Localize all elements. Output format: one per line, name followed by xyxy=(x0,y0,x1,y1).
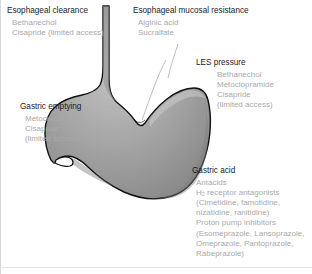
drug-item: Cisapride xyxy=(217,90,274,100)
drug-item: (limited access) xyxy=(25,134,82,144)
callout-title-gastric-acid: Gastric acid xyxy=(192,166,308,177)
drug-item: (limited access) xyxy=(217,100,274,110)
drug-list-esophageal-mucosal-resistance: Alginic acid Sucralfate xyxy=(133,18,249,38)
drug-list-les-pressure: Bethanechol Metoclopramide Cisapride (li… xyxy=(196,70,274,111)
callout-gastric-acid: Gastric acid Antacids H₂ receptor antago… xyxy=(192,166,308,259)
drug-item: Proton pump inhibitors xyxy=(196,218,308,228)
callout-title-les-pressure: LES pressure xyxy=(196,58,274,69)
drug-list-gastric-emptying: Metoclopramide Cisapride (limited access… xyxy=(20,114,82,145)
drug-item: Sucralfate xyxy=(138,28,249,38)
callout-title-gastric-emptying: Gastric emptying xyxy=(20,102,82,113)
callout-esophageal-clearance: Esophageal clearance Bethanechol Cisapri… xyxy=(7,6,104,38)
pylorus-notch xyxy=(55,157,73,166)
leader-line-esophageal-mucosal xyxy=(168,44,178,78)
drug-list-gastric-acid: Antacids H₂ receptor antagonists (Cimeti… xyxy=(192,178,308,260)
drug-item: Cisapride (limited access) xyxy=(12,28,104,38)
callout-esophageal-mucosal-resistance: Esophageal mucosal resistance Alginic ac… xyxy=(133,6,249,38)
drug-item: Metoclopramide xyxy=(25,114,82,124)
drug-item: Metoclopramide xyxy=(217,80,274,90)
callout-gastric-emptying: Gastric emptying Metoclopramide Cisaprid… xyxy=(20,102,82,144)
callout-title-esophageal-mucosal-resistance: Esophageal mucosal resistance xyxy=(133,6,249,17)
drug-item: nizatidine, ranitidine) xyxy=(196,208,308,218)
callout-title-esophageal-clearance: Esophageal clearance xyxy=(7,6,104,17)
drug-item: Bethanechol xyxy=(217,70,274,80)
drug-item: Rabeprazole) xyxy=(196,249,308,259)
callout-les-pressure: LES pressure Bethanechol Metoclopramide … xyxy=(196,58,274,110)
drug-item: Antacids xyxy=(196,178,308,188)
drug-item: Bethanechol xyxy=(12,18,104,28)
drug-item: Cisapride xyxy=(25,124,82,134)
drug-item: Alginic acid xyxy=(138,18,249,28)
drug-item: (Cimetidine, famotidine, xyxy=(196,198,308,208)
drug-item: H₂ receptor antagonists xyxy=(196,188,308,198)
figure-canvas: Esophageal clearance Bethanechol Cisapri… xyxy=(0,0,312,274)
drug-list-esophageal-clearance: Bethanechol Cisapride (limited access) xyxy=(7,18,104,38)
drug-item: (Esomeprazole, Lansoprazole, xyxy=(196,229,308,239)
drug-item: Omeprazole, Pantoprazole, xyxy=(196,239,308,249)
